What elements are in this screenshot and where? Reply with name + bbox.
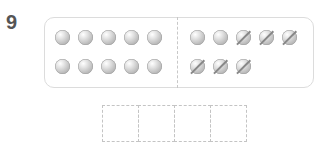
ball-icon	[147, 59, 162, 74]
crossed-ball-icon	[259, 30, 274, 45]
ball-icon	[124, 59, 139, 74]
ball-icon	[124, 30, 139, 45]
crossed-ball-icon	[213, 59, 228, 74]
counting-frame	[44, 17, 314, 88]
ball-icon	[213, 30, 228, 45]
answer-box-4[interactable]	[210, 105, 247, 142]
answer-boxes	[102, 105, 247, 142]
ball-icon	[101, 59, 116, 74]
answer-box-2[interactable]	[138, 105, 175, 142]
ball-icon	[55, 59, 70, 74]
ball-icon	[55, 30, 70, 45]
crossed-ball-icon	[236, 59, 251, 74]
crossed-ball-icon	[282, 30, 297, 45]
ball-icon	[190, 30, 205, 45]
crossed-ball-icon	[236, 30, 251, 45]
answer-box-3[interactable]	[174, 105, 211, 142]
question-number: 9	[6, 10, 17, 34]
answer-box-1[interactable]	[102, 105, 139, 142]
ball-icon	[78, 59, 93, 74]
ball-icon	[78, 30, 93, 45]
ball-icon	[147, 30, 162, 45]
crossed-ball-icon	[190, 59, 205, 74]
group-divider	[177, 17, 178, 88]
ball-icon	[101, 30, 116, 45]
